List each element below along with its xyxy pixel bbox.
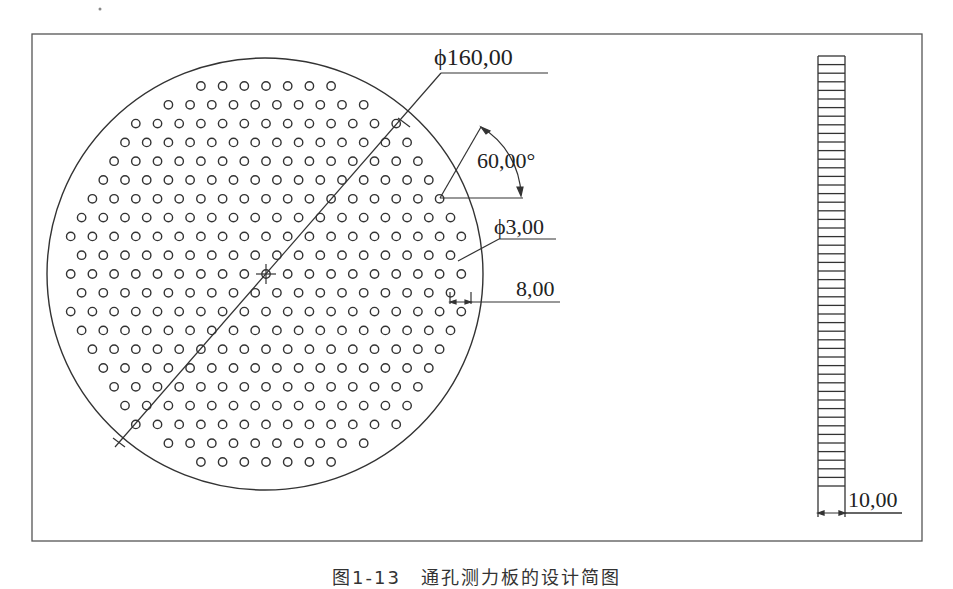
hole	[197, 195, 205, 203]
hole	[360, 176, 368, 184]
hole	[229, 326, 237, 334]
hole	[240, 345, 248, 353]
hole	[153, 232, 161, 240]
angle-label: 60,00°	[477, 148, 535, 173]
hole	[99, 289, 107, 297]
hole	[197, 420, 205, 428]
hole	[153, 383, 161, 391]
drawing-frame	[32, 34, 922, 541]
hole	[77, 251, 85, 259]
hole	[186, 176, 194, 184]
hole	[186, 213, 194, 221]
hole	[99, 251, 107, 259]
hole	[143, 401, 151, 409]
hole	[294, 213, 302, 221]
hole	[262, 232, 270, 240]
hole	[251, 326, 259, 334]
hole	[88, 345, 96, 353]
hole	[294, 439, 302, 447]
hole	[251, 213, 259, 221]
hole	[349, 119, 357, 127]
hole	[284, 307, 292, 315]
hole	[327, 420, 335, 428]
hole	[197, 458, 205, 466]
hole	[327, 383, 335, 391]
hole	[349, 383, 357, 391]
hole	[121, 251, 129, 259]
hole	[284, 458, 292, 466]
hole	[132, 119, 140, 127]
hole	[143, 251, 151, 259]
hole	[338, 401, 346, 409]
hole	[446, 213, 454, 221]
hole	[338, 364, 346, 372]
hole	[240, 82, 248, 90]
hole	[186, 401, 194, 409]
hole	[273, 101, 281, 109]
side-view-slats	[818, 65, 845, 486]
hole	[240, 119, 248, 127]
hole	[392, 307, 400, 315]
hole	[284, 119, 292, 127]
hole	[240, 157, 248, 165]
hole	[381, 289, 389, 297]
hole	[284, 157, 292, 165]
hole	[67, 232, 75, 240]
hole	[240, 232, 248, 240]
hole	[360, 401, 368, 409]
hole	[360, 439, 368, 447]
hole	[121, 364, 129, 372]
hole	[305, 82, 313, 90]
hole	[77, 289, 85, 297]
hole	[88, 270, 96, 278]
hole	[186, 251, 194, 259]
hole	[403, 289, 411, 297]
hole	[229, 101, 237, 109]
hole	[175, 270, 183, 278]
hole	[121, 401, 129, 409]
hole	[305, 270, 313, 278]
hole	[164, 176, 172, 184]
hole	[110, 232, 118, 240]
hole	[403, 401, 411, 409]
hole	[262, 420, 270, 428]
hole	[262, 119, 270, 127]
hole	[153, 157, 161, 165]
hole	[208, 213, 216, 221]
hole	[77, 326, 85, 334]
hole	[425, 251, 433, 259]
hole	[414, 307, 422, 315]
hole	[414, 157, 422, 165]
hole	[197, 232, 205, 240]
hole	[110, 345, 118, 353]
hole	[229, 364, 237, 372]
hole	[349, 195, 357, 203]
hole	[262, 345, 270, 353]
hole	[218, 307, 226, 315]
hole	[218, 345, 226, 353]
hole	[316, 401, 324, 409]
hole	[229, 439, 237, 447]
hole	[208, 289, 216, 297]
hole	[316, 326, 324, 334]
hole	[143, 213, 151, 221]
hole	[164, 289, 172, 297]
hole	[88, 232, 96, 240]
hole	[327, 307, 335, 315]
figure-caption: 图1-13 通孔测力板的设计简图	[0, 563, 953, 589]
hole	[186, 439, 194, 447]
hole	[273, 138, 281, 146]
hole	[164, 213, 172, 221]
hole	[121, 326, 129, 334]
hole	[218, 420, 226, 428]
hole	[327, 345, 335, 353]
hole	[294, 138, 302, 146]
hole	[425, 289, 433, 297]
hole	[381, 176, 389, 184]
hole	[327, 270, 335, 278]
hole	[218, 383, 226, 391]
hole	[370, 345, 378, 353]
hole	[305, 195, 313, 203]
hole	[262, 82, 270, 90]
hole	[121, 289, 129, 297]
